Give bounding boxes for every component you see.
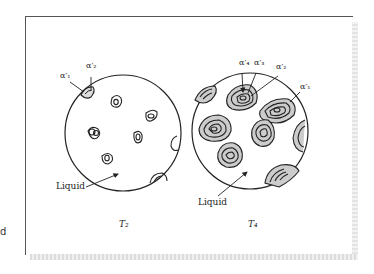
side-text-fragment: d [0,226,6,237]
right-circle-group [192,73,308,196]
microstructure-diagram [0,0,374,274]
right-label-alpha4: α′₄ [239,58,249,67]
left-grains [88,96,178,184]
left-grain-edge [81,87,94,98]
right-liquid-label: Liquid [198,197,227,207]
right-label-alpha2: α′₂ [276,62,286,71]
right-label-alpha3: α′₃ [254,58,264,67]
left-label-alpha2: α′₂ [86,61,96,70]
left-circle-group [65,75,181,191]
right-label-alpha1: α′₁ [300,82,310,91]
right-temperature-label: T₄ [248,219,258,229]
left-temperature-label: T₂ [119,219,129,229]
left-liquid-label: Liquid [56,181,85,191]
right-grains [195,85,305,187]
left-label-alpha1: α′₁ [60,71,70,80]
